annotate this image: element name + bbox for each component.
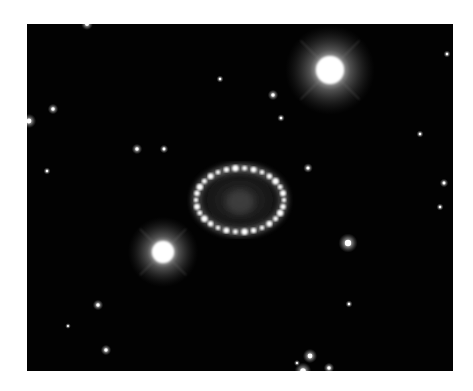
star [303,349,317,363]
star [101,345,112,356]
astronomical-photo [27,24,453,371]
star [27,114,36,128]
ring-bead [272,178,278,184]
ring-bead [260,170,264,174]
ring-bead [224,167,229,172]
ring-bead [241,229,247,235]
ring-bead [202,179,207,184]
bright-star [271,24,389,149]
ring-bead [201,216,207,222]
star [43,167,50,174]
star [216,75,223,82]
star [277,114,285,122]
star [416,130,423,137]
ring-bead [194,198,198,202]
ring-bead [197,211,202,216]
star [294,360,300,366]
star [345,300,352,307]
ring-bead [194,204,200,210]
ring-bead [251,167,257,173]
star-field [27,24,453,371]
star [268,90,279,101]
ring-bead [242,166,247,171]
star [65,323,71,329]
ring-bead [280,190,286,196]
ring-bead [260,226,264,230]
ring-bead [232,165,238,171]
ring-bead [273,216,278,221]
star [81,24,93,30]
star [303,163,313,173]
star [48,104,59,115]
ring-bead [282,198,286,202]
ring-bead [280,204,285,209]
ring-bead [216,170,220,174]
ring-bead [266,221,272,227]
ring-bead [216,226,220,230]
ring-bead [208,221,213,226]
star [440,179,449,188]
ring-bead [267,174,272,179]
ring-bead [277,210,283,216]
star [160,145,169,154]
star [436,203,443,210]
star [324,363,335,371]
ring-bead [278,185,283,190]
ring-bead [208,173,214,179]
ring-bead [197,184,203,190]
ring-bead [223,227,229,233]
star [93,300,104,311]
star [132,144,143,155]
ring-bead [194,191,199,196]
ring-bead [233,229,238,234]
ring-bead [251,228,256,233]
star [443,50,450,57]
star [338,233,357,252]
